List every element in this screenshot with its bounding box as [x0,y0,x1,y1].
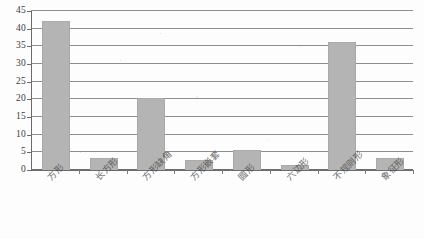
y-tick-label-40: 40 [16,24,26,34]
scan-speck [300,46,301,47]
y-tick-label-45: 45 [16,6,26,16]
plot-area [31,11,413,170]
y-tick-40 [27,29,32,30]
y-tick-label-0: 0 [21,165,26,175]
bar [42,21,70,170]
gridline-40 [31,28,413,29]
y-tick-label-30: 30 [16,59,26,69]
y-tick-30 [27,64,32,65]
x-tick-5 [270,170,271,174]
y-tick-10 [27,135,32,136]
scan-speck [196,97,197,98]
y-tick-5 [27,152,32,153]
y-tick-35 [27,46,32,47]
scan-speck [197,96,198,97]
x-tick-3 [174,170,175,174]
scan-speck [120,60,121,61]
y-tick-20 [27,99,32,100]
y-tick-25 [27,82,32,83]
y-tick-label-20: 20 [16,95,26,105]
scan-speck [160,33,161,34]
x-tick-2 [127,170,128,174]
y-tick-label-15: 15 [16,112,26,122]
y-tick-label-35: 35 [16,42,26,52]
scan-speck [80,152,81,153]
scan-speck [268,140,269,141]
y-axis: 051015202530354045 [31,11,32,171]
scan-speck [353,98,354,99]
scan-speck [230,170,231,171]
y-tick-label-10: 10 [16,130,26,140]
figure-caption [0,228,424,239]
x-tick-6 [318,170,319,174]
y-tick-label-25: 25 [16,77,26,87]
bar [328,42,356,170]
y-tick-15 [27,117,32,118]
bar-chart-figure: 051015202530354045 方形长方形方形缺角方形嵌套圆形六边形不规则… [0,0,424,239]
x-tick-8 [413,170,414,174]
y-tick-45 [27,11,32,12]
x-tick-1 [79,170,80,174]
x-tick-7 [365,170,366,174]
y-tick-label-5: 5 [21,148,26,158]
gridline-45 [31,10,413,11]
x-tick-4 [222,170,223,174]
